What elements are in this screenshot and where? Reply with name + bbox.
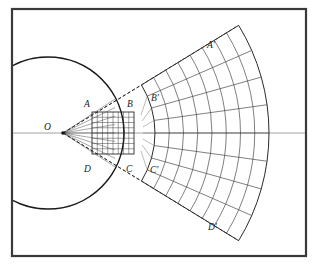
label-A: A [83,99,90,109]
figure-canvas: O A B C D A′ B′ C′ D′ [0,0,322,271]
label-A-prime: A′ [206,40,216,50]
label-B: B [127,99,133,109]
geometry-diagram: O A B C D A′ B′ C′ D′ [0,0,322,271]
label-D-prime: D′ [207,222,218,232]
canvas-background [0,0,322,271]
label-D: D [83,164,91,174]
label-O: O [44,122,51,132]
label-C-prime: C′ [150,165,159,175]
label-C: C [126,164,133,174]
label-B-prime: B′ [151,93,160,103]
